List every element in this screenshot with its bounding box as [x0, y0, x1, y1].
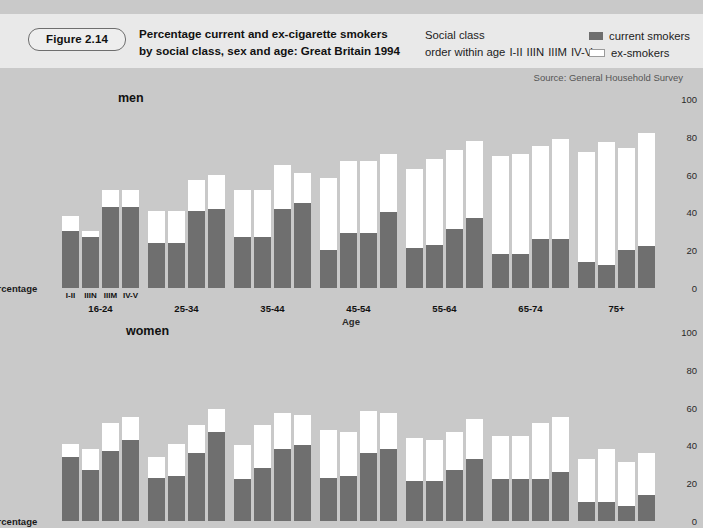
panel-title-men: men — [118, 91, 144, 105]
bar-women-65-74-IIIM — [532, 423, 549, 521]
bar-men-65-74-IV-V — [552, 139, 569, 288]
bar-men-25-34-IV-V — [208, 175, 225, 288]
bar-women-35-44-IIIN — [254, 425, 271, 521]
bar-current-segment — [62, 231, 79, 288]
bar-current-segment — [578, 262, 595, 288]
bar-current-segment — [188, 211, 205, 288]
y-axis-tick-men-60: 60 — [657, 169, 697, 180]
social-class-order-item-0: I-II — [509, 46, 522, 58]
bar-current-segment — [102, 207, 119, 288]
legend-label-ex-smokers: ex-smokers — [611, 45, 669, 62]
bar-current-segment — [638, 246, 655, 288]
bar-men-25-34-I-II — [148, 211, 165, 288]
bar-current-segment — [426, 245, 443, 288]
y-axis-tick-men-20: 20 — [657, 245, 697, 256]
bar-current-segment — [406, 481, 423, 521]
bar-current-segment — [82, 470, 99, 521]
bar-men-35-44-I-II — [234, 190, 251, 288]
bar-men-45-54-IIIN — [340, 161, 357, 288]
bar-women-16-24-IIIM — [102, 423, 119, 521]
bar-current-segment — [618, 506, 635, 521]
y-axis-tick-women-20: 20 — [657, 478, 697, 489]
source-note: Source: General Household Survey — [534, 72, 683, 83]
y-axis-tick-women-100: 100 — [657, 327, 697, 338]
bar-current-segment — [466, 218, 483, 288]
bar-current-segment — [62, 457, 79, 521]
bar-current-segment — [340, 476, 357, 521]
bar-current-segment — [532, 479, 549, 521]
bar-women-45-54-IIIM — [360, 411, 377, 521]
bar-current-segment — [492, 254, 509, 288]
bar-women-16-24-IIIN — [82, 449, 99, 521]
bar-men-55-64-IIIM — [446, 150, 463, 288]
bar-women-75+-IIIM — [618, 462, 635, 521]
social-class-label-IV-V: IV-V — [119, 291, 142, 300]
bar-men-75+-IIIN — [598, 142, 615, 288]
bar-women-75+-IIIN — [598, 449, 615, 521]
bar-current-segment — [446, 470, 463, 521]
bar-men-55-64-I-II — [406, 169, 423, 288]
bar-current-segment — [426, 481, 443, 521]
age-group-label-75+: 75+ — [568, 303, 665, 314]
bar-current-segment — [532, 239, 549, 288]
legend-swatch-current-smokers — [589, 32, 603, 40]
bar-current-segment — [168, 476, 185, 521]
bar-current-segment — [294, 203, 311, 288]
bar-current-segment — [254, 468, 271, 521]
bar-current-segment — [406, 248, 423, 288]
legend-swatch-ex-smokers — [589, 49, 605, 57]
bar-women-55-64-IV-V — [466, 419, 483, 521]
legend-label-current-smokers: current smokers — [609, 28, 690, 45]
y-axis-tick-men-0: 0 — [657, 283, 697, 294]
bar-current-segment — [188, 453, 205, 521]
bar-men-45-54-I-II — [320, 178, 337, 288]
figure-number-badge: Figure 2.14 — [28, 28, 126, 51]
chart-legend: current smokers ex-smokers — [589, 28, 701, 61]
bar-men-45-54-IIIM — [360, 161, 377, 288]
bar-current-segment — [618, 250, 635, 288]
bar-men-75+-IIIM — [618, 148, 635, 288]
y-axis-caption-men: Percentage — [0, 283, 37, 294]
age-group-label-25-34: 25-34 — [138, 303, 235, 314]
y-axis-tick-women-80: 80 — [657, 364, 697, 375]
bar-women-55-64-IIIN — [426, 440, 443, 521]
bar-women-65-74-I-II — [492, 436, 509, 521]
bar-men-75+-I-II — [578, 152, 595, 288]
y-axis-tick-women-40: 40 — [657, 440, 697, 451]
y-axis-caption-women: Percentage — [0, 516, 37, 527]
bar-current-segment — [552, 472, 569, 521]
legend-item-ex-smokers: ex-smokers — [589, 45, 701, 62]
bar-current-segment — [466, 459, 483, 521]
figure-title-line-1: Percentage current and ex-cigarette smok… — [139, 26, 429, 43]
y-axis-tick-women-0: 0 — [657, 516, 697, 527]
bar-current-segment — [552, 239, 569, 288]
bar-women-25-34-IIIN — [168, 444, 185, 521]
bar-current-segment — [274, 449, 291, 521]
bar-women-25-34-IIIM — [188, 425, 205, 521]
bar-current-segment — [638, 495, 655, 521]
bar-current-segment — [208, 209, 225, 288]
bar-men-16-24-IV-V — [122, 190, 139, 288]
age-group-label-55-64: 55-64 — [396, 303, 493, 314]
social-class-order-prefix: order within age — [425, 46, 505, 58]
bar-current-segment — [512, 254, 529, 288]
bar-current-segment — [102, 451, 119, 521]
age-group-label-45-54: 45-54 — [310, 303, 407, 314]
bar-current-segment — [320, 478, 337, 521]
y-axis-tick-women-60: 60 — [657, 402, 697, 413]
age-group-label-16-24: 16-24 — [52, 303, 149, 314]
panel-title-women: women — [126, 324, 169, 338]
bar-men-16-24-IIIN — [82, 231, 99, 288]
bar-women-75+-I-II — [578, 459, 595, 521]
bar-current-segment — [598, 265, 615, 288]
bar-current-segment — [598, 502, 615, 521]
bar-current-segment — [254, 237, 271, 288]
bar-women-45-54-I-II — [320, 430, 337, 521]
bar-women-25-34-IV-V — [208, 409, 225, 521]
legend-item-current-smokers: current smokers — [589, 28, 701, 45]
bar-current-segment — [168, 243, 185, 288]
bar-current-segment — [208, 432, 225, 521]
y-axis-tick-men-40: 40 — [657, 207, 697, 218]
bar-women-45-54-IV-V — [380, 413, 397, 521]
bar-current-segment — [234, 237, 251, 288]
